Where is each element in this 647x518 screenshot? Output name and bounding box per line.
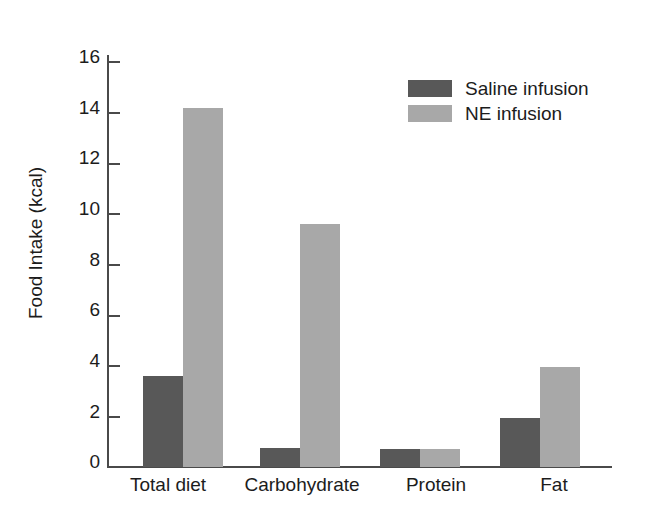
- x-axis-label-protein: Protein: [376, 474, 496, 496]
- y-tick-label-16: 16: [56, 47, 100, 66]
- y-tick-label-0: 0: [56, 452, 100, 471]
- y-tick-label-14: 14: [56, 98, 100, 117]
- y-tick-label-6: 6: [56, 300, 100, 319]
- bar-ne-protein: [420, 449, 460, 467]
- bar-saline-fat: [500, 418, 540, 467]
- legend-label-ne: NE infusion: [465, 103, 562, 125]
- x-axis-label-total-diet: Total diet: [108, 474, 228, 496]
- bar-ne-total-diet: [183, 108, 223, 467]
- bar-group-carbohydrate: [260, 55, 340, 467]
- bar-chart-figure: Food Intake (kcal) 16 14 12 10 8 6 4 2 0: [0, 0, 647, 518]
- bar-ne-carbohydrate: [300, 224, 340, 467]
- legend: Saline infusion NE infusion: [408, 76, 589, 126]
- legend-label-saline: Saline infusion: [465, 78, 589, 100]
- y-axis-tick-labels: 16 14 12 10 8 6 4 2 0: [14, 0, 100, 518]
- x-axis-label-carbohydrate: Carbohydrate: [224, 474, 380, 496]
- bar-ne-fat: [540, 367, 580, 467]
- legend-swatch-ne-icon: [408, 105, 452, 122]
- legend-swatch-saline-icon: [408, 80, 452, 97]
- x-axis-label-fat: Fat: [496, 474, 612, 496]
- y-tick-label-10: 10: [56, 199, 100, 218]
- legend-item-ne: NE infusion: [408, 101, 589, 126]
- y-tick-label-2: 2: [56, 402, 100, 421]
- bar-saline-carbohydrate: [260, 448, 300, 467]
- bar-saline-protein: [380, 449, 420, 467]
- y-tick-label-12: 12: [56, 148, 100, 167]
- y-tick-label-8: 8: [56, 250, 100, 269]
- bar-group-total-diet: [143, 55, 223, 467]
- y-tick-label-4: 4: [56, 351, 100, 370]
- bar-saline-total-diet: [143, 376, 183, 467]
- legend-item-saline: Saline infusion: [408, 76, 589, 101]
